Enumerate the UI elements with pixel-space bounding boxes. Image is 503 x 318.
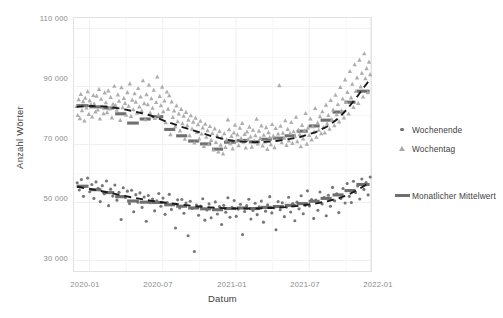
- y-tick-label: 110 000: [8, 14, 68, 23]
- x-tick-label: 2022-01: [348, 280, 408, 289]
- legend-item-monatlicher-mittelwert[interactable]: Monatlicher Mittelwert: [392, 186, 503, 205]
- legend-label: Wochentag: [412, 144, 455, 154]
- legend-label: Monatlicher Mittelwert: [412, 191, 496, 201]
- gridlines: [73, 17, 372, 272]
- triangle-marker-icon: [392, 139, 412, 158]
- circle-marker-icon: [392, 120, 412, 139]
- x-tick-label: 2021-07: [275, 280, 335, 289]
- weekend-points: [76, 175, 372, 253]
- thick-dash-line-icon: [392, 186, 412, 205]
- weekday-points: [74, 51, 372, 155]
- plot-area: [73, 17, 372, 272]
- x-axis-title: Datum: [73, 293, 372, 304]
- y-tick-label: 90 000: [8, 74, 68, 83]
- y-tick-label: 50 000: [8, 194, 68, 203]
- chart-root: Anzahl Wörter 110 000 90 000 70 000 50 0…: [0, 0, 503, 318]
- legend-label: Wochenende: [412, 125, 462, 135]
- trend-lines: [77, 79, 371, 209]
- chart-legend: Wochenende Wochentag Monatlicher Mittelw…: [392, 120, 503, 205]
- y-tick-label: 30 000: [8, 254, 68, 263]
- x-tick-label: 2021-01: [202, 280, 262, 289]
- legend-item-wochenende[interactable]: Wochenende: [392, 120, 503, 139]
- y-axis-tick-labels: 110 000 90 000 70 000 50 000 30 000: [0, 0, 68, 318]
- legend-item-wochentag[interactable]: Wochentag: [392, 139, 503, 158]
- plot-svg: [73, 17, 372, 272]
- legend-spacer: [392, 158, 503, 186]
- y-tick-label: 70 000: [8, 134, 68, 143]
- x-tick-label: 2020-01: [55, 280, 115, 289]
- x-tick-label: 2020-07: [128, 280, 188, 289]
